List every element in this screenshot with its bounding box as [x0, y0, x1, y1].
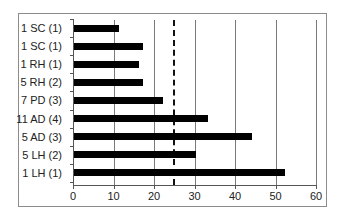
y-tick — [70, 110, 74, 111]
bar — [74, 25, 119, 32]
category-label: 1 RH (1) — [20, 58, 62, 70]
gridline — [316, 20, 317, 185]
x-tick-label: 20 — [139, 190, 169, 202]
x-tick — [316, 185, 317, 189]
category-label: 5 RH (2) — [20, 76, 62, 88]
y-tick — [70, 146, 74, 147]
bar — [74, 169, 285, 176]
x-tick-label: 30 — [180, 190, 210, 202]
bar — [74, 61, 139, 68]
reference-line — [173, 20, 175, 185]
y-tick — [70, 182, 74, 183]
bar — [74, 79, 143, 86]
bar — [74, 115, 208, 122]
category-label: 5 AD (3) — [22, 131, 62, 143]
y-tick — [70, 73, 74, 74]
y-tick — [70, 128, 74, 129]
y-tick — [70, 19, 74, 20]
x-tick — [154, 185, 155, 189]
x-tick — [114, 185, 115, 189]
category-label: 1 LH (1) — [22, 167, 62, 179]
category-label: 11 AD (4) — [16, 113, 62, 125]
category-label: 1 SC (1) — [21, 22, 62, 34]
bar — [74, 97, 163, 104]
gridline — [276, 20, 277, 185]
bar — [74, 151, 196, 158]
gridline — [195, 20, 196, 185]
x-tick — [73, 185, 74, 189]
x-tick-label: 40 — [220, 190, 250, 202]
bar — [74, 43, 143, 50]
y-tick — [70, 164, 74, 165]
x-tick — [276, 185, 277, 189]
category-label: 1 SC (1) — [21, 40, 62, 52]
y-tick — [70, 91, 74, 92]
x-tick-label: 10 — [99, 190, 129, 202]
x-tick — [195, 185, 196, 189]
x-tick — [235, 185, 236, 189]
category-label: 5 LH (2) — [22, 149, 62, 161]
y-tick — [70, 37, 74, 38]
y-tick — [70, 55, 74, 56]
gridline — [235, 20, 236, 185]
category-label: 7 PD (3) — [21, 94, 62, 106]
x-tick-label: 50 — [261, 190, 291, 202]
bar — [74, 133, 252, 140]
x-tick-label: 60 — [301, 190, 331, 202]
x-tick-label: 0 — [58, 190, 88, 202]
